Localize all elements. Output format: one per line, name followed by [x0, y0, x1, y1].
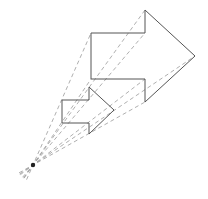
dashed-ray: [19, 102, 145, 173]
dashed-ray: [24, 10, 145, 178]
dashed-ray: [20, 56, 195, 174]
small-arrow: [62, 87, 114, 134]
dashed-ray: [27, 33, 91, 180]
dashed-ray: [23, 33, 145, 177]
dashed-ray: [20, 79, 145, 175]
dilation-diagram: [0, 0, 208, 199]
dilation-center-point: [31, 163, 35, 167]
dashed-rays: [19, 10, 195, 180]
large-arrow: [91, 10, 195, 102]
